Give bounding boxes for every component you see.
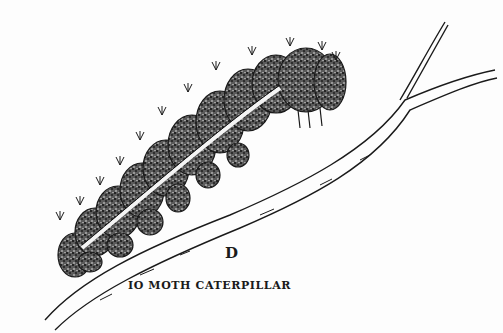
figure-letter: D xyxy=(225,244,238,262)
caterpillar-body xyxy=(58,48,346,277)
figure-caption: IO MOTH CATERPILLAR xyxy=(128,279,291,292)
